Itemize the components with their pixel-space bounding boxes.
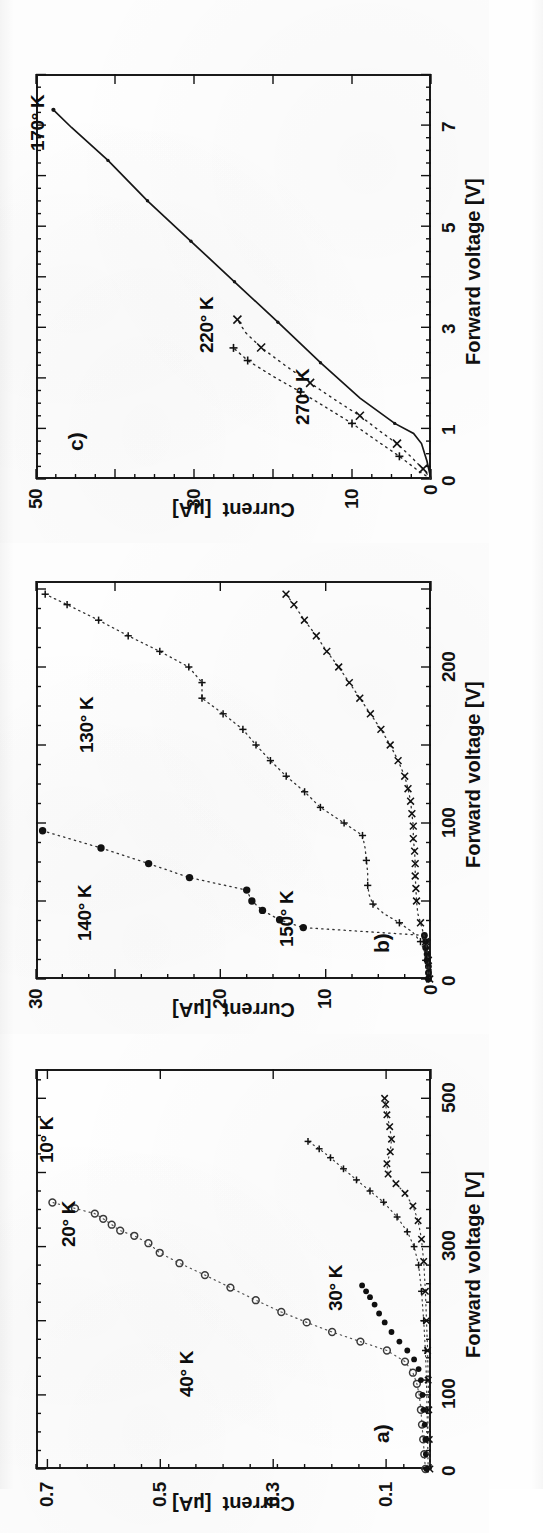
panel-slot-c: 0 1 3 5 7 0 10 30 50 Forward voltage [V]…: [0, 0, 543, 543]
series-label-30K: 30° K: [325, 1265, 347, 1311]
panel-a-yaxis-name: Current: [223, 1493, 295, 1515]
panel-c-label: c): [64, 432, 88, 451]
plot-canvas-c: [0, 0, 489, 543]
series-220K-markers: [233, 316, 427, 473]
panel-b-label: b): [370, 933, 394, 953]
panel-a: 0 100 300 500 0.1 0.3 0.5 0.7 Forward vo…: [0, 1034, 489, 1533]
panel-b: 0 100 200 0 10 20 30 Forward voltage [V]…: [0, 543, 489, 1043]
series-130K-markers: [283, 591, 434, 983]
series-270K-line: [234, 348, 432, 479]
panel-a-xaxis-title: Forward voltage [V]: [462, 1171, 485, 1358]
series-label-20K: 20° K: [58, 1201, 80, 1247]
series-140K-line: [45, 594, 428, 979]
panel-c-ytick-0: 0: [420, 485, 442, 495]
panel-a-xtick-500: 500: [438, 1083, 460, 1113]
panel-b-xtick-100: 100: [438, 808, 460, 838]
panel-a-yaxis-unit: [µA]: [172, 1493, 211, 1515]
plot-canvas-a: [0, 1034, 489, 1533]
series-label-140K: 140° K: [74, 885, 96, 942]
series-170K-line: [53, 110, 431, 479]
panel-a-ytick-07: 0.7: [36, 1482, 58, 1507]
panel-c-xaxis-unit: [V]: [462, 178, 484, 205]
series-220K-line: [237, 320, 431, 479]
panel-slot-a: 0 100 300 500 0.1 0.3 0.5 0.7 Forward vo…: [0, 990, 543, 1489]
series-label-270K: 270° K: [292, 369, 314, 426]
series-label-130K: 130° K: [76, 697, 98, 754]
series-label-150K: 150° K: [276, 891, 298, 948]
panel-a-yaxis-title: Current [µA]: [172, 1492, 295, 1515]
panel-a-label: a): [370, 1424, 394, 1443]
plot-canvas-b: [0, 543, 489, 1043]
series-label-220K: 220° K: [196, 297, 218, 354]
panel-a-xtick-100: 100: [438, 1379, 460, 1409]
series-140K-markers: [42, 591, 432, 983]
series-20K-markers: [305, 1138, 432, 1472]
panel-c-xtick-3: 3: [438, 324, 460, 334]
series-label-170K: 170° K: [27, 95, 49, 152]
panel-c-xaxis-title: Forward voltage [V]: [462, 178, 485, 365]
panel-a-ytick-05: 0.5: [149, 1482, 171, 1507]
panel-slot-b: 0 100 200 0 10 20 30 Forward voltage [V]…: [0, 500, 543, 1000]
series-label-10K: 10° K: [36, 1117, 58, 1163]
panel-a-ytick-01: 0.1: [375, 1482, 397, 1507]
panel-a-xaxis-unit: [V]: [462, 1171, 484, 1198]
panel-a-xaxis-name: Forward voltage: [462, 1204, 484, 1358]
panel-b-xaxis-title: Forward voltage [V]: [462, 681, 485, 868]
panel-b-xaxis-name: Forward voltage: [462, 714, 484, 868]
series-30K-markers: [359, 1283, 429, 1472]
series-130K-line: [286, 594, 430, 979]
panel-c-xtick-1: 1: [438, 425, 460, 435]
panel-b-xaxis-unit: [V]: [462, 681, 484, 708]
panel-c-xaxis-name: Forward voltage: [462, 211, 484, 365]
series-150K-line: [43, 831, 429, 979]
series-10K-markers: [381, 1095, 433, 1472]
panel-b-xtick-200: 200: [438, 652, 460, 682]
panel-a-xtick-0: 0: [438, 1466, 460, 1476]
series-label-40K: 40° K: [176, 1351, 198, 1397]
panel-c-xtick-5: 5: [438, 223, 460, 233]
panel-c: 0 1 3 5 7 0 10 30 50 Forward voltage [V]…: [0, 0, 489, 543]
panel-a-xtick-300: 300: [438, 1231, 460, 1261]
panel-c-xtick-7: 7: [438, 122, 460, 132]
